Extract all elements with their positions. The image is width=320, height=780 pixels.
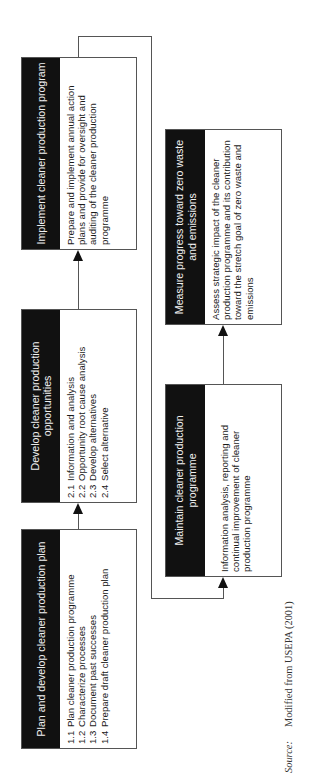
source-label: Source:: [283, 741, 294, 773]
box-implement-title: Implement cleaner production program: [22, 58, 60, 249]
list-item: 2.4Select alternative: [99, 315, 110, 498]
connector-line: [78, 261, 79, 309]
box-maintain: Maintain cleaner production programme In…: [165, 384, 282, 577]
connector-line: [151, 598, 224, 599]
connector-line: [151, 36, 152, 599]
box-plan-title: Plan and develop cleaner production plan: [22, 530, 60, 748]
arrow-up-icon: [73, 503, 83, 514]
box-implement-description: Prepare and implement annual action plan…: [60, 58, 136, 249]
box-plan: Plan and develop cleaner production plan…: [21, 529, 137, 749]
list-item: 2.2Opportunity root cause analysis: [76, 315, 87, 498]
connector-line: [223, 336, 224, 384]
arrow-up-icon: [218, 577, 228, 588]
connector-line: [78, 36, 152, 37]
list-item: 1.2Characterize processes: [76, 535, 87, 744]
box-measure-title: Measure progress toward zero waste and e…: [166, 130, 205, 324]
connector-line: [78, 36, 79, 57]
list-item: 1.3Document past successes: [87, 535, 98, 744]
box-plan-list: 1.1Plan cleaner production programme 1.2…: [60, 530, 136, 748]
arrow-up-icon: [73, 250, 83, 261]
source-text: Modified from USEPA (2001): [283, 601, 294, 727]
box-implement: Implement cleaner production program Pre…: [21, 57, 137, 250]
connector-line: [78, 514, 79, 529]
list-item: 1.1Plan cleaner production programme: [65, 535, 76, 744]
box-develop-list: 2.1Information and analysis 2.2Opportuni…: [60, 310, 136, 502]
box-measure: Measure progress toward zero waste and e…: [165, 129, 282, 325]
box-develop-title: Develop cleaner production opportunities: [22, 310, 60, 502]
box-maintain-title: Maintain cleaner production programme: [166, 385, 205, 576]
box-measure-description: Assess strategic impact of the cleaner p…: [205, 130, 281, 324]
box-develop: Develop cleaner production opportunities…: [21, 309, 137, 503]
arrow-up-icon: [218, 325, 228, 336]
connector-line: [223, 588, 224, 599]
box-maintain-description: Information analysis, reporting and cont…: [205, 385, 281, 576]
list-item: 2.1Information and analysis: [65, 315, 76, 498]
list-item: 2.3Develop alternatives: [87, 315, 98, 498]
source-caption: Source:Modified from USEPA (2001): [283, 601, 294, 773]
list-item: 1.4Prepare draft cleaner production plan: [99, 535, 110, 744]
